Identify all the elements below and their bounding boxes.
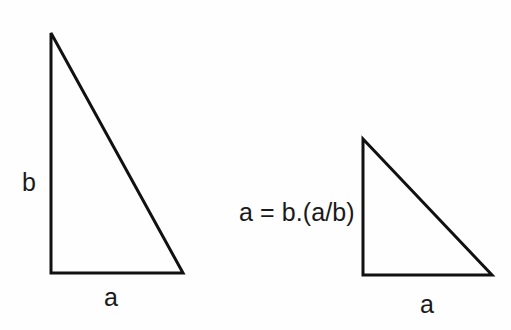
small-right-triangle: [363, 139, 492, 275]
large-right-triangle: [51, 33, 183, 273]
label-b-left-triangle: b: [22, 170, 36, 195]
figure-canvas: b a a = b.(a/b) a: [0, 0, 511, 330]
diagram-svg: [0, 0, 511, 330]
label-a-right-triangle: a: [420, 292, 434, 317]
equation-label: a = b.(a/b): [239, 200, 355, 225]
label-a-left-triangle: a: [104, 285, 118, 310]
